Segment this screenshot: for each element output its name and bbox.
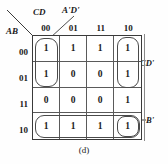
kmap-cell: 0: [87, 62, 114, 88]
kmap-cell: 1: [33, 62, 60, 88]
kmap-cell: 1: [33, 36, 60, 62]
kmap-cell: 1: [114, 36, 141, 62]
column-header-0: 00: [32, 24, 60, 33]
column-header-1: 01: [60, 24, 88, 33]
kmap-cell: 1: [33, 113, 60, 139]
column-header-2: 11: [87, 24, 115, 33]
kmap-cell: 1: [60, 113, 87, 139]
annotation-label-adp: A'D': [62, 6, 80, 15]
karnaugh-map-figure: CD AB A'D' CD' B' 00 01 11 10 00 01 11 1…: [0, 0, 168, 164]
annotation-label-cdp: CD': [140, 59, 154, 68]
kmap-cell: 1: [87, 113, 114, 139]
row-variable-label: AB: [6, 27, 18, 36]
kmap-cell: 1: [87, 36, 114, 62]
row-header-2: 11: [8, 100, 28, 109]
kmap-cell: 0: [87, 88, 114, 114]
kmap-cell: 1: [114, 113, 141, 139]
annotation-label-bp: B': [146, 116, 154, 125]
row-header-3: 10: [8, 126, 28, 135]
kmap-cell: 1: [114, 62, 141, 88]
kmap-cell: 1: [114, 88, 141, 114]
kmap-grid: 1 1 1 1 1 0 0 1 0 0 0 1 1 1 1 1: [32, 35, 142, 140]
row-header-0: 00: [8, 48, 28, 57]
kmap-cell: 0: [33, 88, 60, 114]
grid-edge-rule: [144, 34, 145, 141]
kmap-cell: 1: [60, 36, 87, 62]
row-header-1: 01: [8, 74, 28, 83]
kmap-cell: 0: [60, 88, 87, 114]
kmap-cell: 0: [60, 62, 87, 88]
column-header-3: 10: [115, 24, 143, 33]
column-variable-label: CD: [33, 8, 46, 17]
figure-caption: (d): [0, 145, 168, 155]
